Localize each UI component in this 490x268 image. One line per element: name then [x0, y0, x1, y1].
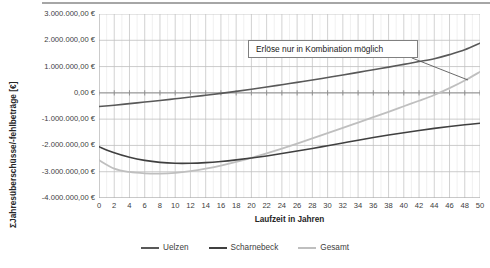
- chart-legend: UelzenScharnebeckGesamt: [0, 243, 490, 252]
- legend-label: Scharnebeck: [231, 243, 279, 252]
- y-axis-tick-label: -3.000.000,00 €: [42, 167, 95, 176]
- legend-swatch-icon: [209, 247, 227, 249]
- y-axis-tick-label: 0,00 €: [74, 88, 95, 97]
- legend-swatch-icon: [298, 247, 316, 249]
- x-axis-tick-label: 6: [143, 201, 147, 210]
- x-axis-tick-label: 32: [339, 201, 347, 210]
- annotation-callout: Erlöse nur in Kombination möglich: [248, 40, 418, 58]
- y-axis-tick-label: -2.000.000,00 €: [42, 140, 95, 149]
- legend-item[interactable]: Uelzen: [141, 243, 189, 252]
- x-axis-tick-label: 36: [369, 201, 377, 210]
- x-axis-tick-label: 2: [112, 201, 116, 210]
- x-axis-tick-label: 26: [293, 201, 301, 210]
- x-axis-tick-label: 10: [171, 201, 179, 210]
- x-axis-tick-label: 42: [415, 201, 423, 210]
- x-axis-tick-label: 50: [476, 201, 484, 210]
- x-axis-tick-label: 8: [158, 201, 162, 210]
- x-axis-tick-label: 34: [354, 201, 362, 210]
- x-axis-tick-label: 14: [201, 201, 209, 210]
- x-axis-tick-label: 30: [323, 201, 331, 210]
- y-axis-tick-label: 1.000.000,00 €: [44, 62, 95, 71]
- chart-container: ΣJahresüberschüsse/-fehlbeträge [€] 3.00…: [0, 0, 490, 268]
- legend-item[interactable]: Gesamt: [298, 243, 349, 252]
- x-axis-tick-label: 0: [97, 201, 101, 210]
- annotation-callout-text: Erlöse nur in Kombination möglich: [256, 44, 383, 54]
- annotation-leader-line: [412, 58, 468, 80]
- x-axis-tick-label: 48: [461, 201, 469, 210]
- x-axis-title: Laufzeit in Jahren: [99, 215, 480, 224]
- x-axis-tick-label: 24: [278, 201, 286, 210]
- top-divider: [42, 2, 490, 4]
- y-axis-tick-labels: 3.000.000,00 €2.000.000,00 €1.000.000,00…: [0, 0, 95, 268]
- x-axis-tick-label: 38: [384, 201, 392, 210]
- x-axis-tick-label: 22: [262, 201, 270, 210]
- legend-label: Uelzen: [163, 243, 189, 252]
- x-axis-tick-label: 16: [217, 201, 225, 210]
- y-axis-tick-label: 3.000.000,00 €: [44, 9, 95, 18]
- x-axis-tick-labels: 0246810121416182022242628303234363840424…: [99, 201, 480, 215]
- legend-label: Gesamt: [320, 243, 349, 252]
- legend-item[interactable]: Scharnebeck: [209, 243, 279, 252]
- x-axis-tick-label: 28: [308, 201, 316, 210]
- x-axis-tick-label: 20: [247, 201, 255, 210]
- x-axis-tick-label: 4: [127, 201, 131, 210]
- y-axis-tick-label: 2.000.000,00 €: [44, 35, 95, 44]
- x-axis-tick-label: 40: [400, 201, 408, 210]
- x-axis-tick-label: 18: [232, 201, 240, 210]
- x-axis-tick-label: 12: [186, 201, 194, 210]
- legend-swatch-icon: [141, 247, 159, 249]
- x-axis-tick-label: 44: [430, 201, 438, 210]
- y-axis-tick-label: -1.000.000,00 €: [42, 114, 95, 123]
- y-axis-tick-label: -4.000.000,00 €: [42, 193, 95, 202]
- x-axis-tick-label: 46: [445, 201, 453, 210]
